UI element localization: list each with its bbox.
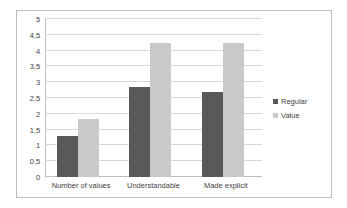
legend-swatch-icon [273,99,278,104]
y-axis-tick-label: 2 [36,109,40,118]
bar-value-1 [150,43,171,177]
bar-group [45,19,117,177]
bar-regular-1 [129,87,150,177]
x-axis-category-label: Understandable [117,181,189,190]
chart-legend: RegularValue [273,97,329,125]
y-axis-tick-label: 4 [36,46,40,55]
x-axis-category-label: Made explicit [190,181,262,190]
bar-value-0 [78,119,99,177]
bar-group [117,19,189,177]
chart-figure: 54,543,532,521,510,50 Number of valuesUn… [16,10,332,198]
bar-regular-0 [57,136,78,177]
y-axis-tick-label: 5 [36,15,40,24]
bar-value-2 [223,43,244,177]
y-axis-tick-label: 1,5 [30,125,40,134]
y-axis-tick-label: 4,5 [30,30,40,39]
y-axis-tick-label: 3 [36,78,40,87]
x-axis-category-label: Number of values [45,181,117,190]
legend-entry: Regular [273,97,329,106]
y-axis-tick-label: 1 [36,141,40,150]
y-axis-tick-label: 0 [36,173,40,182]
y-axis-tick-label: 3,5 [30,62,40,71]
legend-entry: Value [273,111,329,120]
y-axis-tick-label: 2,5 [30,94,40,103]
y-axis-tick-label: 0,5 [30,157,40,166]
legend-swatch-icon [273,113,278,118]
bar-regular-2 [202,92,223,177]
legend-label: Value [281,111,300,120]
x-axis-category-labels: Number of valuesUnderstandableMade expli… [45,181,262,197]
y-axis-tick-labels: 54,543,532,521,510,50 [17,11,43,185]
bars-layer [45,19,262,177]
bar-group [190,19,262,177]
legend-label: Regular [281,97,307,106]
plot-area [45,19,262,177]
